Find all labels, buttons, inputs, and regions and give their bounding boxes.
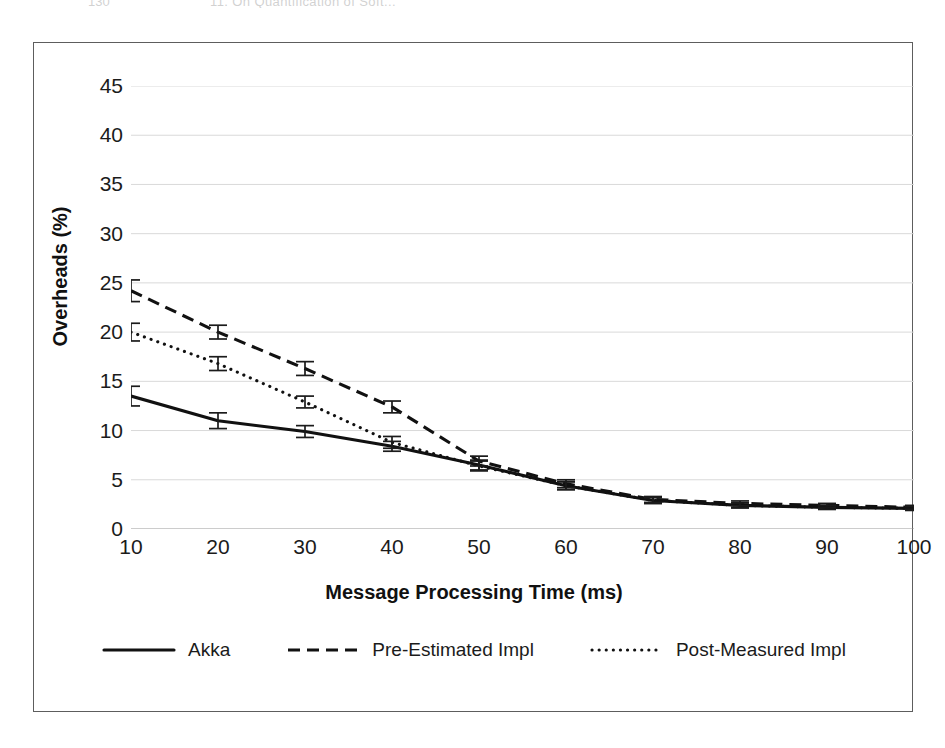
x-tick-label: 10 [96, 535, 166, 559]
x-tick-label: 30 [270, 535, 340, 559]
y-tick-label: 5 [77, 468, 123, 492]
legend-label: Pre-Estimated Impl [372, 639, 534, 661]
chart-legend: AkkaPre-Estimated ImplPost-Measured Impl [34, 639, 914, 661]
y-tick-label: 35 [77, 172, 123, 196]
chart-figure: Overheads (%) 051015202530354045 1020304… [33, 42, 913, 712]
y-tick-label: 30 [77, 222, 123, 246]
y-tick-label: 40 [77, 123, 123, 147]
plot-area [131, 86, 914, 529]
y-tick-label: 15 [77, 369, 123, 393]
x-tick-label: 50 [444, 535, 514, 559]
x-tick-label: 70 [618, 535, 688, 559]
x-tick-label: 20 [183, 535, 253, 559]
series-lines [131, 291, 914, 509]
x-tick-label: 40 [357, 535, 427, 559]
y-tick-label: 45 [77, 74, 123, 98]
legend-item[interactable]: Akka [102, 639, 230, 661]
page-running-title: 11. On Quantification of Soft... [210, 0, 396, 8]
page-running-head: 130 11. On Quantification of Soft... [0, 0, 945, 8]
legend-item[interactable]: Pre-Estimated Impl [286, 639, 534, 661]
gridlines [131, 86, 914, 529]
legend-item[interactable]: Post-Measured Impl [590, 639, 846, 661]
x-tick-label: 60 [531, 535, 601, 559]
y-axis-tick-labels: 051015202530354045 [59, 86, 123, 529]
y-tick-label: 10 [77, 419, 123, 443]
y-tick-label: 20 [77, 320, 123, 344]
series-line [131, 396, 914, 508]
legend-swatch-solid [102, 643, 176, 657]
x-tick-label: 90 [792, 535, 862, 559]
x-axis-tick-labels: 102030405060708090100 [131, 535, 914, 565]
x-tick-label: 100 [879, 535, 945, 559]
series-line [131, 332, 914, 508]
x-tick-label: 80 [705, 535, 775, 559]
legend-swatch-dotted [590, 643, 664, 657]
legend-swatch-dashed [286, 643, 360, 657]
legend-label: Post-Measured Impl [676, 639, 846, 661]
page-folio-number: 130 [88, 0, 110, 8]
chart-canvas [131, 86, 914, 529]
y-tick-label: 25 [77, 271, 123, 295]
legend-label: Akka [188, 639, 230, 661]
x-axis-title: Message Processing Time (ms) [34, 581, 914, 604]
